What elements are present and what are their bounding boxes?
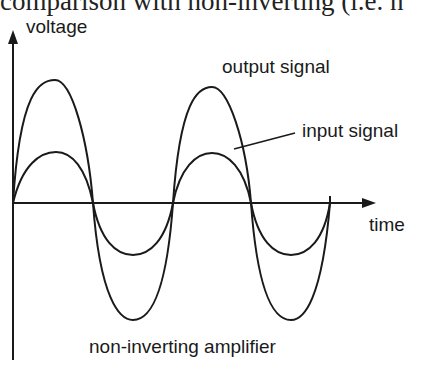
x-axis-label: time [369,214,405,236]
output-signal-curve [13,80,330,320]
y-axis-arrow-icon [8,30,18,44]
y-axis-label: voltage [26,16,87,38]
input-signal-pointer [234,133,295,149]
input-signal-label: input signal [302,120,398,142]
output-signal-label: output signal [222,56,330,78]
signal-diagram [0,0,426,374]
x-axis-arrow-icon [362,198,376,208]
diagram-title: non-inverting amplifier [89,336,276,358]
